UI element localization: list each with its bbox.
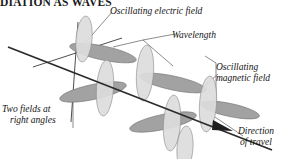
travel-direction-arrowhead xyxy=(212,120,233,131)
label-oscillating-electric-field: Oscillating electric field xyxy=(110,6,202,17)
radiation-as-waves-figure: DIATION AS WAVES xyxy=(0,0,288,159)
magnetic-lobe xyxy=(58,78,128,107)
label-two-fields-line-2: right angles xyxy=(2,115,56,126)
label-two-fields-line-1: Two fields at xyxy=(2,104,50,114)
label-oscillating-magnetic-field: Oscillating magnetic field xyxy=(216,62,270,83)
wavelength-leader-line xyxy=(143,34,175,40)
label-magnetic-line-2: magnetic field xyxy=(216,73,270,84)
label-direction-of-travel: Direction of travel xyxy=(238,126,274,147)
electric-lobe xyxy=(135,44,156,101)
label-wavelength: Wavelength xyxy=(172,30,216,41)
label-two-fields-at-right-angles: Two fields at right angles xyxy=(2,104,56,125)
label-direction-line-2: of travel xyxy=(238,137,274,148)
label-direction-line-1: Direction xyxy=(238,126,274,136)
label-magnetic-line-1: Oscillating xyxy=(216,62,258,72)
